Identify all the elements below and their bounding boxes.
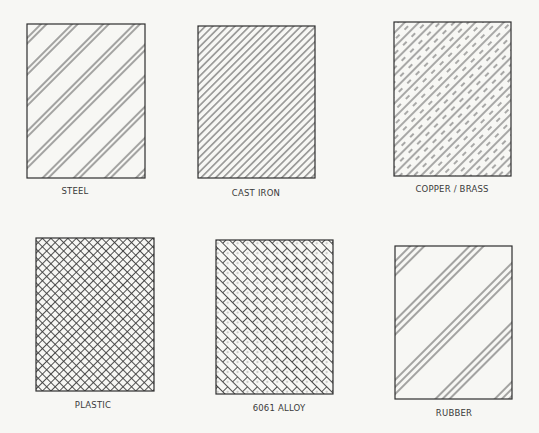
label-plastic: PLASTIC	[75, 400, 111, 410]
hatch-pattern-legend: STEEL CAST IRON COPPER / BRASS PLASTIC 6…	[0, 0, 539, 433]
label-6061-alloy: 6061 ALLOY	[253, 403, 306, 413]
label-rubber: RUBBER	[436, 408, 472, 418]
swatch-rubber	[395, 246, 512, 399]
swatch-steel	[27, 24, 145, 178]
hatch-swatches-canvas	[0, 0, 539, 433]
label-steel: STEEL	[61, 186, 88, 196]
label-cast-iron: CAST IRON	[232, 188, 280, 198]
swatch-copper-brass	[394, 22, 511, 176]
label-copper-brass: COPPER / BRASS	[415, 184, 488, 194]
swatch-6061-alloy	[216, 240, 333, 394]
swatch-plastic	[36, 238, 154, 391]
swatch-cast-iron	[198, 26, 315, 178]
